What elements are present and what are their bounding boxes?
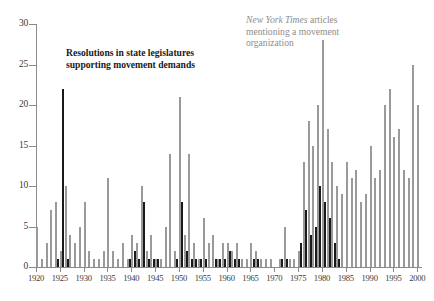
x-tick-label: 1995 <box>379 274 407 283</box>
bar-nyt-articles <box>374 178 376 267</box>
bar-state-resolutions <box>62 89 64 267</box>
bar-nyt-articles <box>279 259 281 267</box>
bar-nyt-articles <box>346 162 348 267</box>
bar-nyt-articles <box>98 259 100 267</box>
x-tick-label: 1980 <box>308 274 336 283</box>
chart-figure: 051015202530 192019251930193519401945195… <box>0 0 434 301</box>
bar-nyt-articles <box>65 186 67 267</box>
bar-nyt-articles <box>93 259 95 267</box>
bar-state-resolutions <box>143 202 145 267</box>
bar-nyt-articles <box>317 105 319 267</box>
bar-nyt-articles <box>360 202 362 267</box>
bar-nyt-articles <box>312 146 314 268</box>
bar-state-resolutions <box>305 210 307 267</box>
bar-nyt-articles <box>293 259 295 267</box>
bar-state-resolutions <box>300 243 302 267</box>
bar-nyt-articles <box>112 251 114 267</box>
y-tick-mark <box>29 24 36 25</box>
bar-nyt-articles <box>222 243 224 267</box>
bar-nyt-articles <box>227 243 229 267</box>
bar-nyt-articles <box>417 105 419 267</box>
y-tick-label: 30 <box>2 19 28 29</box>
bar-state-resolutions <box>238 259 240 267</box>
bar-state-resolutions <box>334 243 336 267</box>
bar-state-resolutions <box>138 259 140 267</box>
bar-nyt-articles <box>250 243 252 267</box>
bar-nyt-articles <box>184 235 186 267</box>
bar-nyt-articles <box>322 40 324 267</box>
bar-state-resolutions <box>148 259 150 267</box>
bar-nyt-articles <box>408 178 410 267</box>
bar-nyt-articles <box>79 227 81 268</box>
bar-state-resolutions <box>157 259 159 267</box>
x-tick-label: 1930 <box>70 274 98 283</box>
bar-state-resolutions <box>195 259 197 267</box>
bar-nyt-articles <box>60 251 62 267</box>
y-tick-label: 0 <box>2 262 28 272</box>
x-tick-label: 1955 <box>189 274 217 283</box>
bar-nyt-articles <box>308 121 310 267</box>
bar-state-resolutions <box>191 259 193 267</box>
bar-state-resolutions <box>234 259 236 267</box>
bar-nyt-articles <box>231 251 233 267</box>
x-axis-line <box>36 267 422 268</box>
y-tick-mark <box>29 65 36 66</box>
y-axis-labels: 051015202530 <box>0 0 28 301</box>
x-tick-label: 1965 <box>236 274 264 283</box>
bar-nyt-articles <box>255 251 257 267</box>
bar-nyt-articles <box>103 251 105 267</box>
bar-nyt-articles <box>203 218 205 267</box>
bar-state-resolutions <box>253 259 255 267</box>
bar-nyt-articles <box>169 154 171 267</box>
bar-state-resolutions <box>329 218 331 267</box>
y-tick-mark <box>29 186 36 187</box>
bar-nyt-articles <box>212 235 214 267</box>
bar-nyt-articles <box>155 259 157 267</box>
annotation-gray-series: New York Times articles mentioning a mov… <box>246 14 374 49</box>
bar-state-resolutions <box>186 251 188 267</box>
bar-state-resolutions <box>176 259 178 267</box>
bar-state-resolutions <box>219 259 221 267</box>
bar-nyt-articles <box>69 235 71 267</box>
bar-nyt-articles <box>50 210 52 267</box>
bar-nyt-articles <box>84 202 86 267</box>
bar-state-resolutions <box>338 259 340 267</box>
bar-nyt-articles <box>403 170 405 267</box>
bar-nyt-articles <box>355 170 357 267</box>
bar-nyt-articles <box>241 259 243 267</box>
bar-nyt-articles <box>174 251 176 267</box>
bar-nyt-articles <box>217 259 219 267</box>
bar-nyt-articles <box>46 243 48 267</box>
x-tick-label: 1960 <box>213 274 241 283</box>
bar-nyt-articles <box>127 259 129 267</box>
bar-state-resolutions <box>257 259 259 267</box>
y-axis-line <box>36 24 37 268</box>
y-tick-label: 5 <box>2 222 28 232</box>
bar-nyt-articles <box>55 202 57 267</box>
bar-state-resolutions <box>224 259 226 267</box>
bar-nyt-articles <box>74 243 76 267</box>
bar-nyt-articles <box>327 129 329 267</box>
x-tick-label: 1970 <box>260 274 288 283</box>
y-tick-mark <box>29 146 36 147</box>
bar-nyt-articles <box>165 227 167 268</box>
bar-nyt-articles <box>136 243 138 267</box>
x-tick-label: 1990 <box>356 274 384 283</box>
bar-state-resolutions <box>315 227 317 268</box>
bar-state-resolutions <box>134 251 136 267</box>
y-tick-mark <box>29 227 36 228</box>
bar-nyt-articles <box>384 105 386 267</box>
bar-nyt-articles <box>122 243 124 267</box>
bar-nyt-articles <box>198 259 200 267</box>
bar-nyt-articles <box>131 235 133 267</box>
bar-nyt-articles <box>88 251 90 267</box>
bar-nyt-articles <box>389 89 391 267</box>
bar-state-resolutions <box>229 251 231 267</box>
bar-nyt-articles <box>265 259 267 267</box>
bar-nyt-articles <box>270 259 272 267</box>
bar-state-resolutions <box>200 259 202 267</box>
x-tick-label: 1985 <box>332 274 360 283</box>
y-tick-mark <box>29 267 36 268</box>
bar-nyt-articles <box>289 259 291 267</box>
bar-nyt-articles <box>117 259 119 267</box>
